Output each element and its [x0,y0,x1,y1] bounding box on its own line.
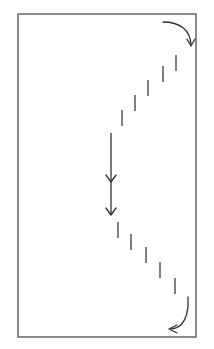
top-right-curved-arrow [163,22,195,46]
lower-dash-group [118,222,175,294]
top-right-curve-path [163,22,191,44]
diagram-svg [0,0,214,349]
upper-dash-group [122,55,176,126]
bottom-right-curved-arrow [169,297,188,333]
central-double-arrow [106,133,116,215]
bottom-right-curve-path [171,297,188,329]
diagram-canvas [0,0,214,349]
